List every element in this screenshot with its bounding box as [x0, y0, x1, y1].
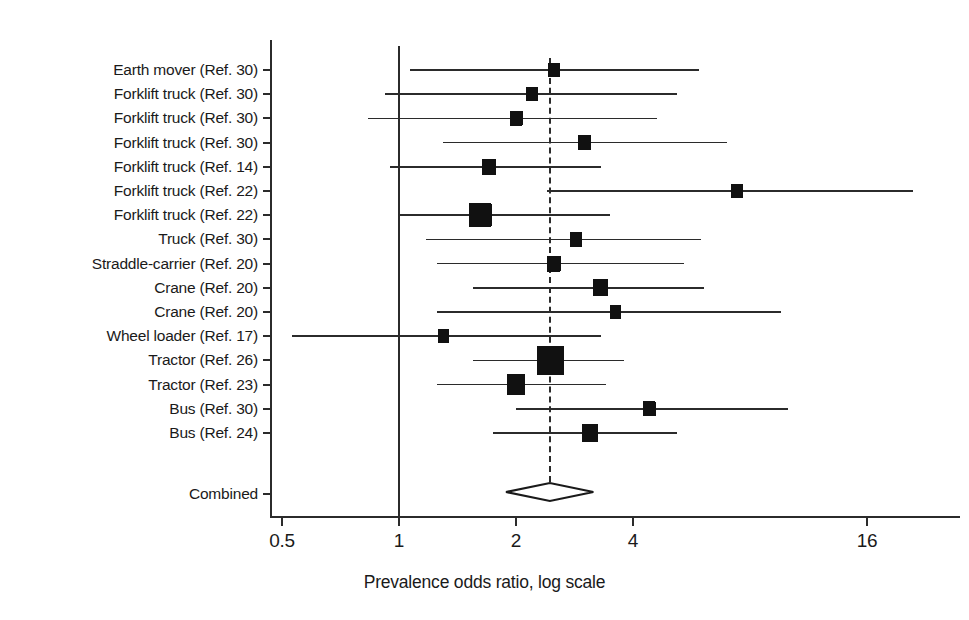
study-label: Truck (Ref. 30) [0, 231, 266, 246]
x-axis-tick-label: 2 [476, 530, 556, 552]
study-label: Straddle-carrier (Ref. 20) [0, 256, 266, 271]
study-label: Forklift truck (Ref. 30) [0, 135, 266, 150]
x-axis-tick [398, 517, 400, 526]
study-label: Forklift truck (Ref. 30) [0, 86, 266, 101]
x-axis-tick [866, 517, 868, 526]
x-axis-spine [270, 516, 960, 518]
point-estimate-marker [469, 203, 491, 227]
study-label: Wheel loader (Ref. 17) [0, 328, 266, 343]
point-estimate-marker [731, 184, 743, 199]
study-label: Forklift truck (Ref. 22) [0, 183, 266, 198]
point-estimate-marker [526, 87, 538, 101]
point-estimate-marker [548, 63, 560, 78]
point-estimate-marker [482, 159, 496, 175]
point-estimate-marker [610, 305, 621, 319]
x-axis-tick [281, 517, 283, 526]
point-estimate-marker [537, 346, 564, 375]
study-label: Forklift truck (Ref. 30) [0, 110, 266, 125]
point-estimate-marker [582, 424, 598, 442]
confidence-interval-line [399, 214, 610, 216]
combined-diamond [506, 481, 593, 503]
x-axis-tick-label: 1 [359, 530, 439, 552]
point-estimate-marker [593, 279, 608, 296]
x-axis-tick [632, 517, 634, 526]
confidence-interval-line [547, 190, 913, 192]
point-estimate-marker [547, 256, 561, 272]
point-estimate-marker [510, 111, 523, 126]
x-axis-tick-label: 16 [827, 530, 907, 552]
study-label: Bus (Ref. 24) [0, 425, 266, 440]
forest-plot: Earth mover (Ref. 30)Forklift truck (Ref… [0, 0, 969, 620]
study-label: Tractor (Ref. 26) [0, 352, 266, 367]
study-label: Earth mover (Ref. 30) [0, 62, 266, 77]
x-axis-tick-label: 0.5 [242, 530, 322, 552]
study-label: Forklift truck (Ref. 14) [0, 159, 266, 174]
confidence-interval-line [473, 287, 704, 289]
point-estimate-marker [570, 232, 582, 247]
point-estimate-marker [438, 329, 449, 343]
study-label: Tractor (Ref. 23) [0, 377, 266, 392]
null-effect-line [398, 46, 400, 516]
study-label: Bus (Ref. 30) [0, 401, 266, 416]
point-estimate-marker [643, 401, 655, 416]
confidence-interval-line [426, 239, 702, 241]
study-label: Crane (Ref. 20) [0, 304, 266, 319]
point-estimate-marker [578, 135, 590, 150]
point-estimate-marker [507, 374, 525, 394]
x-axis-title: Prevalence odds ratio, log scale [0, 572, 969, 593]
study-label: Forklift truck (Ref. 22) [0, 207, 266, 222]
study-label: Crane (Ref. 20) [0, 280, 266, 295]
y-axis-spine [270, 40, 272, 518]
x-axis-tick-label: 4 [593, 530, 673, 552]
combined-label: Combined [0, 486, 266, 501]
x-axis-tick [515, 517, 517, 526]
